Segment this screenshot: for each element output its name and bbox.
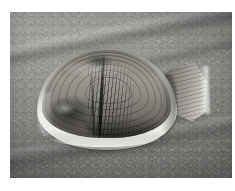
shell-rim-shadow-right xyxy=(161,74,177,132)
clam-shell xyxy=(37,48,177,150)
fragment-lit-edge xyxy=(199,66,210,114)
photograph xyxy=(10,12,232,178)
shell-rim-highlight-left xyxy=(38,92,54,136)
shell-rim-highlight-bottom xyxy=(49,136,161,147)
shell-eroded-highlight xyxy=(54,102,76,115)
photo-page: A weathered clam shell lying on rippled … xyxy=(0,0,235,191)
